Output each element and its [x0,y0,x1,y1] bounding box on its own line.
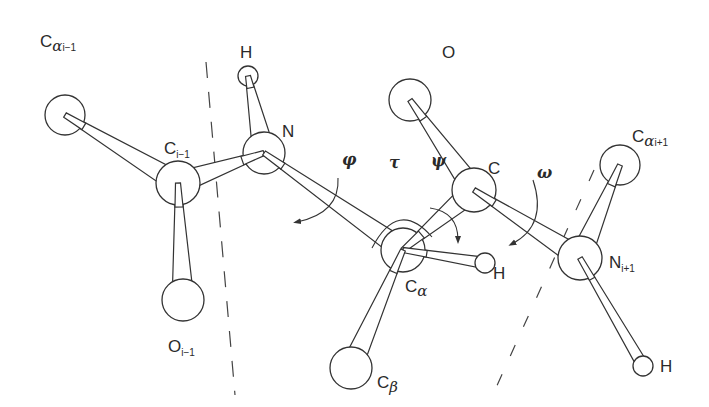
label-ca_next: Cαi+1 [632,128,668,149]
atom-cb [330,347,372,389]
tau-label: τ [389,155,400,171]
atom-h_ca [475,253,495,273]
label-c: C [488,160,500,177]
atom-h_next [633,356,653,376]
label-h_n: H [240,44,252,61]
label-h_next: H [660,358,672,375]
bonds [64,75,645,363]
psi-label: ψ [431,153,446,169]
atoms [45,66,653,389]
label-o: O [442,44,455,61]
peptide-plane-left-dashes [206,62,235,395]
peptide-diagram: Cαi−1Ci−1Oi−1HNOCCαHCβCαi+1Ni+1H φ τ ψ ω [0,0,709,407]
label-c_prev: Ci−1 [164,140,190,160]
label-n_next: Ni+1 [609,254,635,274]
label-ca: Cα [405,278,427,299]
omega-label: ω [537,165,552,181]
label-cb: Cβ [377,374,398,395]
atom-o_prev [162,279,204,321]
label-o_prev: Oi−1 [168,338,195,358]
label-h_ca: H [493,265,505,282]
label-ca_prev: Cαi−1 [40,33,76,54]
phi-label: φ [342,152,356,168]
molecule-drawing [0,0,709,407]
label-n: N [282,123,294,140]
